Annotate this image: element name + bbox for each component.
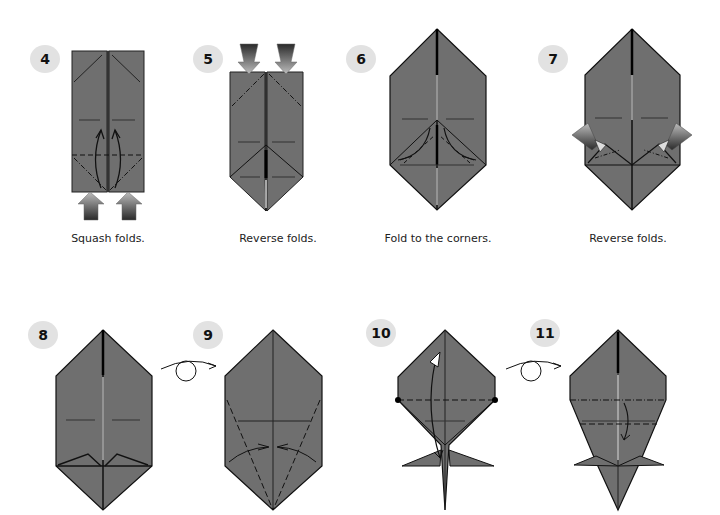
step-4-figure (72, 51, 144, 220)
step-number: 6 (356, 51, 366, 67)
origami-diagram (0, 0, 720, 515)
step-10-figure (395, 330, 498, 510)
step-number: 10 (371, 325, 390, 341)
step-number: 7 (548, 51, 558, 67)
step-caption: Reverse folds. (198, 232, 358, 245)
step-8-figure (56, 330, 152, 510)
step-number-badge: 9 (193, 321, 223, 349)
step-number: 8 (38, 327, 48, 343)
step-caption: Squash folds. (28, 232, 188, 245)
step-number-badge: 4 (30, 45, 60, 73)
turn-over-icon (161, 361, 216, 381)
step-9-figure (225, 330, 322, 510)
step-caption: Fold to the corners. (358, 232, 518, 245)
step-number: 5 (203, 51, 213, 67)
step-6-figure (390, 29, 486, 210)
step-number-badge: 11 (530, 319, 560, 347)
turn-over-icon (506, 361, 561, 381)
step-number-badge: 5 (193, 45, 223, 73)
step-5-figure (230, 44, 303, 211)
step-caption: Reverse folds. (548, 232, 708, 245)
step-number: 4 (40, 51, 50, 67)
step-number-badge: 6 (346, 45, 376, 73)
step-number: 9 (203, 327, 213, 343)
step-number: 11 (535, 325, 554, 341)
step-number-badge: 10 (366, 319, 396, 347)
step-number-badge: 8 (28, 321, 58, 349)
step-7-figure (572, 29, 692, 210)
step-11-figure (570, 330, 666, 510)
step-number-badge: 7 (538, 45, 568, 73)
